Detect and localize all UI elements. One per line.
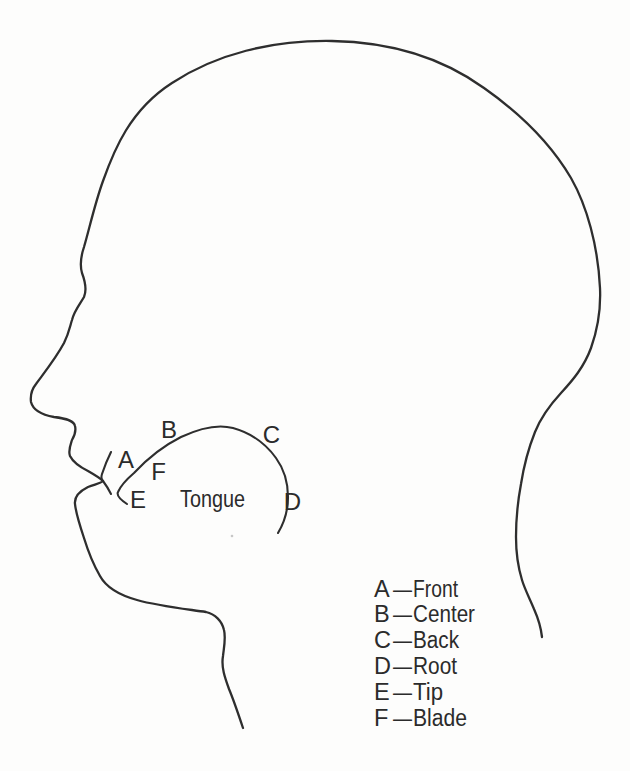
legend-row-tip: E — Tip xyxy=(374,679,443,705)
scanned-diagram-page: A B C D E F Tongue A — Front B — Center … xyxy=(0,0,630,771)
legend-row-blade: F — Blade xyxy=(374,705,467,731)
legend-row-root: D — Root xyxy=(374,653,457,679)
region-marker-blade: F xyxy=(151,458,166,485)
legend-name: Root xyxy=(413,653,457,679)
legend-row-front: A — Front xyxy=(374,576,458,602)
region-marker-back: C xyxy=(263,421,280,448)
legend-row-back: C — Back xyxy=(374,627,459,653)
legend-name: Front xyxy=(413,576,458,602)
region-marker-root: D xyxy=(284,488,301,515)
tongue-label: Tongue xyxy=(180,486,245,512)
legend-dash: — xyxy=(393,705,412,731)
legend-letter: B xyxy=(374,601,390,627)
legend-name: Back xyxy=(413,627,459,653)
legend-row-center: B — Center xyxy=(374,601,475,627)
legend-letter: C xyxy=(374,627,391,653)
head-profile-outline xyxy=(31,41,600,728)
legend-name: Blade xyxy=(413,705,467,731)
mouth-corner-line xyxy=(102,452,111,494)
legend-dash: — xyxy=(393,627,412,653)
legend-letter: F xyxy=(374,705,388,731)
legend-name: Tip xyxy=(413,679,443,705)
legend-dash: — xyxy=(393,601,412,627)
legend: A — Front B — Center C — Back D — Root E xyxy=(374,576,475,731)
legend-dash: — xyxy=(393,576,412,602)
head-tongue-diagram: A B C D E F Tongue A — Front B — Center … xyxy=(0,0,630,771)
region-marker-tip: E xyxy=(130,486,146,513)
scan-speck xyxy=(231,535,234,538)
legend-letter: A xyxy=(374,576,390,602)
legend-letter: E xyxy=(374,679,390,705)
region-marker-front: A xyxy=(118,446,134,473)
legend-dash: — xyxy=(393,679,412,705)
legend-name: Center xyxy=(413,601,475,627)
region-marker-center: B xyxy=(161,416,177,443)
legend-letter: D xyxy=(374,653,391,679)
legend-dash: — xyxy=(393,653,412,679)
